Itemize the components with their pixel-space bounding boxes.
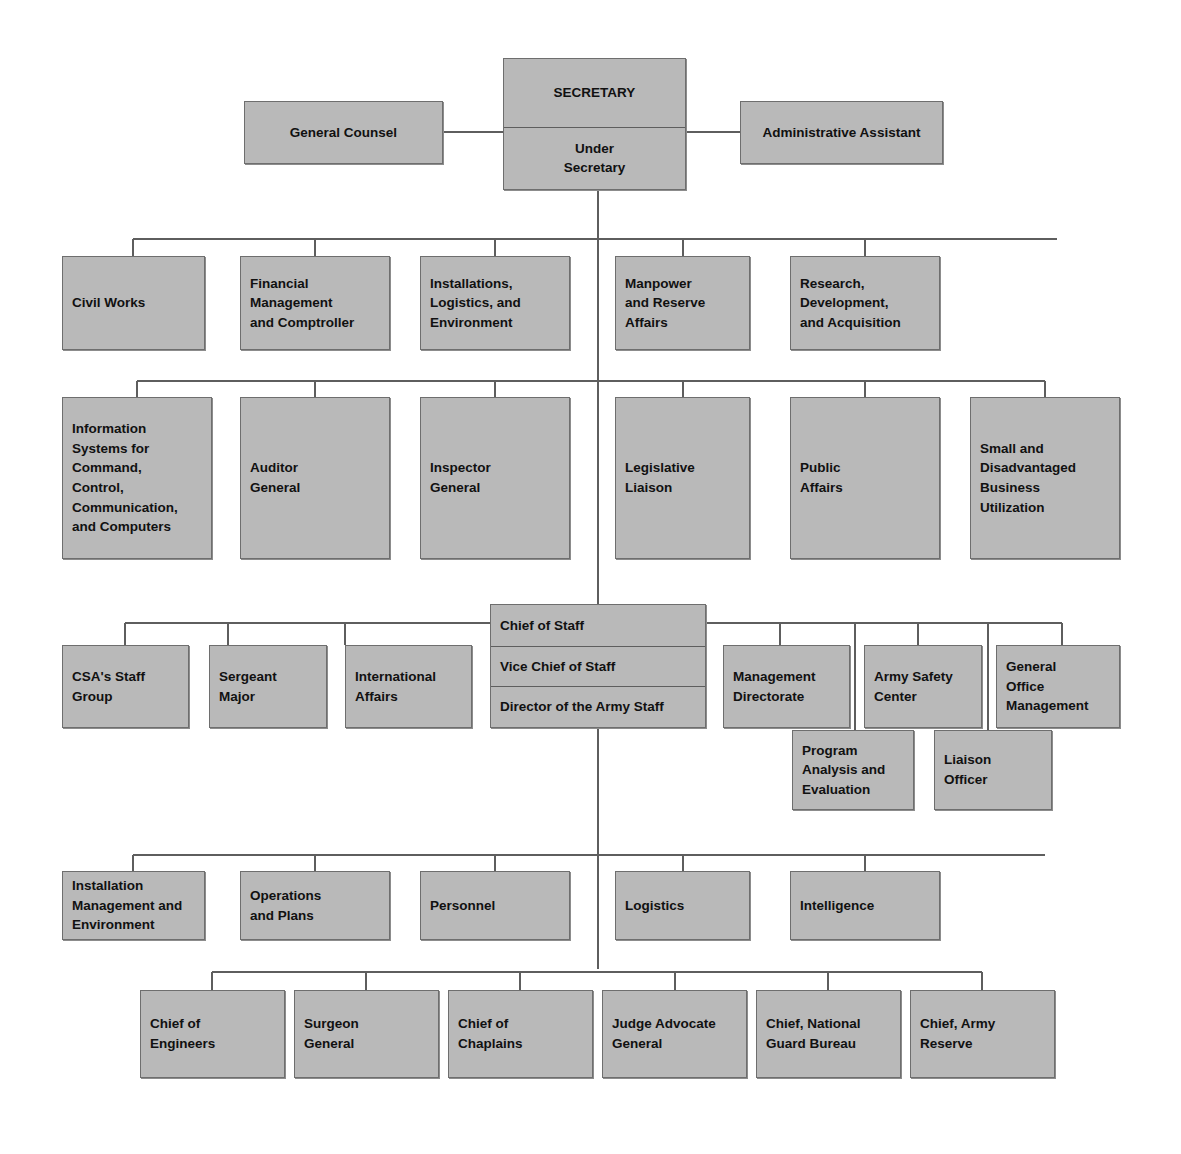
node-vice-chief-of-staff-label: Vice Chief of Staff — [491, 657, 705, 677]
node-chief-army-reserve[interactable]: Chief, Army Reserve — [910, 990, 1055, 1078]
node-auditor-general-label: Auditor General — [241, 458, 389, 497]
node-program-analysis-evaluation[interactable]: Program Analysis and Evaluation — [792, 730, 914, 810]
node-liaison-officer[interactable]: Liaison Officer — [934, 730, 1052, 810]
node-intelligence-label: Intelligence — [791, 896, 939, 916]
node-personnel[interactable]: Personnel — [420, 871, 570, 940]
node-chief-of-chaplains[interactable]: Chief of Chaplains — [448, 990, 593, 1078]
node-chief-of-staff-group[interactable]: Chief of Staff Vice Chief of Staff Direc… — [490, 604, 706, 728]
node-operations-and-plans[interactable]: Operations and Plans — [240, 871, 390, 940]
node-surgeon-general-label: Surgeon General — [295, 1014, 438, 1053]
node-installations-logistics-environment[interactable]: Installations, Logistics, and Environmen… — [420, 256, 570, 350]
node-international-affairs[interactable]: International Affairs — [345, 645, 472, 728]
node-army-safety-center[interactable]: Army Safety Center — [864, 645, 982, 728]
node-judge-advocate-general[interactable]: Judge Advocate General — [602, 990, 747, 1078]
node-legislative-liaison[interactable]: Legislative Liaison — [615, 397, 750, 559]
node-chief-of-staff[interactable]: Chief of Staff — [491, 605, 705, 646]
node-auditor-general[interactable]: Auditor General — [240, 397, 390, 559]
node-under-secretary-label: Under Secretary — [504, 139, 685, 178]
node-international-affairs-label: International Affairs — [346, 667, 471, 706]
node-secretary[interactable]: SECRETARY Under Secretary — [503, 58, 686, 190]
node-logistics[interactable]: Logistics — [615, 871, 750, 940]
node-general-office-management[interactable]: General Office Management — [996, 645, 1120, 728]
node-management-directorate[interactable]: Management Directorate — [723, 645, 850, 728]
node-small-disadvantaged-business[interactable]: Small and Disadvantaged Business Utiliza… — [970, 397, 1120, 559]
node-under-secretary: Under Secretary — [504, 127, 685, 189]
node-civil-works-label: Civil Works — [63, 293, 204, 313]
node-judge-advocate-general-label: Judge Advocate General — [603, 1014, 746, 1053]
node-administrative-assistant-label: Administrative Assistant — [741, 123, 942, 143]
node-civil-works[interactable]: Civil Works — [62, 256, 205, 350]
node-financial-management[interactable]: Financial Management and Comptroller — [240, 256, 390, 350]
node-legislative-liaison-label: Legislative Liaison — [616, 458, 749, 497]
node-general-counsel-label: General Counsel — [245, 123, 442, 143]
node-management-directorate-label: Management Directorate — [724, 667, 849, 706]
node-chief-army-reserve-label: Chief, Army Reserve — [911, 1014, 1054, 1053]
org-chart: SECRETARY Under Secretary General Counse… — [0, 0, 1181, 1154]
node-manpower-reserve-affairs-label: Manpower and Reserve Affairs — [616, 274, 749, 333]
node-public-affairs[interactable]: Public Affairs — [790, 397, 940, 559]
node-program-analysis-evaluation-label: Program Analysis and Evaluation — [793, 741, 913, 800]
node-information-systems[interactable]: Information Systems for Command, Control… — [62, 397, 212, 559]
node-personnel-label: Personnel — [421, 896, 569, 916]
node-chief-of-chaplains-label: Chief of Chaplains — [449, 1014, 592, 1053]
node-csa-staff-group[interactable]: CSA's Staff Group — [62, 645, 189, 728]
node-chief-of-engineers[interactable]: Chief of Engineers — [140, 990, 285, 1078]
node-surgeon-general[interactable]: Surgeon General — [294, 990, 439, 1078]
node-intelligence[interactable]: Intelligence — [790, 871, 940, 940]
node-installations-logistics-environment-label: Installations, Logistics, and Environmen… — [421, 274, 569, 333]
node-secretary-top: SECRETARY — [504, 59, 685, 127]
node-general-counsel[interactable]: General Counsel — [244, 101, 443, 164]
node-operations-and-plans-label: Operations and Plans — [241, 886, 389, 925]
node-army-safety-center-label: Army Safety Center — [865, 667, 981, 706]
node-installation-management-environment-label: Installation Management and Environment — [63, 876, 204, 935]
node-chief-national-guard-bureau[interactable]: Chief, National Guard Bureau — [756, 990, 901, 1078]
node-sergeant-major-label: Sergeant Major — [210, 667, 326, 706]
node-chief-of-staff-label: Chief of Staff — [491, 616, 705, 636]
node-secretary-top-label: SECRETARY — [504, 83, 685, 103]
node-public-affairs-label: Public Affairs — [791, 458, 939, 497]
node-research-development-acquisition[interactable]: Research, Development, and Acquisition — [790, 256, 940, 350]
node-liaison-officer-label: Liaison Officer — [935, 750, 1051, 789]
node-financial-management-label: Financial Management and Comptroller — [241, 274, 389, 333]
node-vice-chief-of-staff[interactable]: Vice Chief of Staff — [491, 646, 705, 687]
node-inspector-general-label: Inspector General — [421, 458, 569, 497]
node-manpower-reserve-affairs[interactable]: Manpower and Reserve Affairs — [615, 256, 750, 350]
node-csa-staff-group-label: CSA's Staff Group — [63, 667, 188, 706]
node-research-development-acquisition-label: Research, Development, and Acquisition — [791, 274, 939, 333]
node-small-disadvantaged-business-label: Small and Disadvantaged Business Utiliza… — [971, 439, 1119, 517]
node-information-systems-label: Information Systems for Command, Control… — [63, 419, 211, 536]
node-director-army-staff[interactable]: Director of the Army Staff — [491, 686, 705, 727]
node-sergeant-major[interactable]: Sergeant Major — [209, 645, 327, 728]
node-logistics-label: Logistics — [616, 896, 749, 916]
node-inspector-general[interactable]: Inspector General — [420, 397, 570, 559]
node-installation-management-environment[interactable]: Installation Management and Environment — [62, 871, 205, 940]
node-general-office-management-label: General Office Management — [997, 657, 1119, 716]
node-director-army-staff-label: Director of the Army Staff — [491, 697, 705, 717]
node-chief-national-guard-bureau-label: Chief, National Guard Bureau — [757, 1014, 900, 1053]
node-chief-of-engineers-label: Chief of Engineers — [141, 1014, 284, 1053]
node-administrative-assistant[interactable]: Administrative Assistant — [740, 101, 943, 164]
